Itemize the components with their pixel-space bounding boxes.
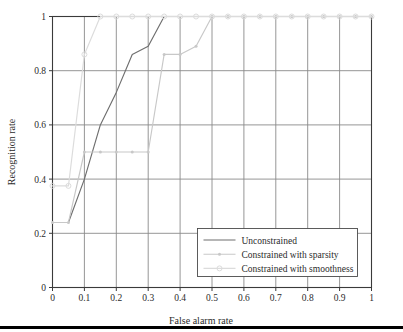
x-tick-label: 0.3 [142, 293, 154, 303]
y-tick-label: 0.2 [34, 229, 46, 239]
x-tick-label: 0 [50, 293, 55, 303]
y-tick-label: 0.4 [34, 175, 46, 185]
series-marker-dot [67, 221, 70, 224]
y-tick-label: 0.8 [34, 66, 46, 76]
bottom-divider-rule [0, 326, 403, 329]
legend-label: Constrained with sparsity [242, 250, 339, 260]
series-marker-dot [99, 151, 102, 154]
x-tick-label: 0.4 [174, 293, 186, 303]
series-marker-dot [51, 221, 54, 224]
series-marker-dot [163, 53, 166, 56]
x-tick-label: 0.8 [302, 293, 314, 303]
roc-chart: 00.10.20.30.40.50.60.70.80.91 00.20.40.6… [0, 0, 403, 332]
x-tick-label: 0.5 [206, 293, 218, 303]
series-marker-dot [195, 45, 198, 48]
y-tick-label: 0 [41, 283, 46, 293]
chart-legend[interactable]: UnconstrainedConstrained with sparsityCo… [198, 229, 358, 277]
y-tick-label: 1 [41, 12, 46, 22]
x-tick-label: 0.1 [78, 293, 90, 303]
chart-background [0, 0, 403, 332]
figure-container: 00.10.20.30.40.50.60.70.80.91 00.20.40.6… [0, 0, 403, 332]
x-axis-title: False alarm rate [169, 315, 233, 326]
series-marker-dot [115, 151, 118, 154]
x-tick-label: 0.9 [334, 293, 346, 303]
series-marker-dot [131, 151, 134, 154]
x-tick-label: 0.6 [238, 293, 250, 303]
series-marker-dot [83, 151, 86, 154]
legend-label: Constrained with smoothness [242, 264, 354, 274]
y-axis-title: Recognition rate [6, 118, 17, 185]
legend-marker-dot [218, 253, 221, 256]
series-marker-dot [147, 151, 150, 154]
x-tick-label: 1 [369, 293, 374, 303]
x-tick-label: 0.2 [110, 293, 122, 303]
y-tick-label: 0.6 [34, 120, 46, 130]
x-tick-label: 0.7 [270, 293, 282, 303]
legend-label: Unconstrained [242, 236, 298, 246]
series-marker-dot [179, 53, 182, 56]
